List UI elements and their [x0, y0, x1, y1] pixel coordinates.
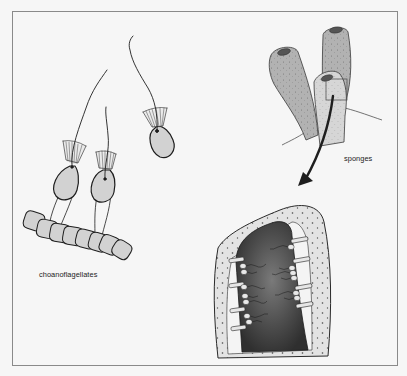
diagram-canvas [0, 0, 407, 376]
free-choanoflagellate [129, 36, 174, 158]
sponge-cross-section [214, 206, 330, 358]
choanocyte-cell-middle [91, 107, 116, 202]
choanoflagellate-colony [22, 36, 174, 262]
choanoflagellates-label: choanoflagellates [39, 270, 97, 279]
sponges-label: sponges [344, 154, 372, 163]
diagram-figure: choanoflagellates sponges [0, 0, 407, 376]
